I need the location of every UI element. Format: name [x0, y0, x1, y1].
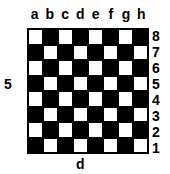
square-c5	[58, 76, 73, 92]
square-a2	[29, 123, 42, 137]
square-g4	[119, 92, 132, 106]
square-d4	[73, 91, 88, 107]
square-g6	[119, 61, 132, 75]
file-label-d: d	[73, 5, 88, 23]
rank-label-2: 2	[152, 124, 168, 140]
square-e6	[89, 61, 102, 75]
file-label-a: a	[27, 5, 42, 23]
bottom-file-label: d	[76, 156, 85, 172]
file-label-b: b	[42, 5, 57, 23]
square-g7	[118, 45, 133, 61]
square-f1	[104, 139, 117, 153]
square-h4	[133, 91, 148, 107]
rank-label-1: 1	[152, 140, 168, 156]
square-h3	[134, 108, 147, 122]
square-a7	[28, 45, 43, 61]
square-e4	[89, 92, 102, 106]
square-h5	[134, 77, 147, 91]
square-b8	[43, 29, 58, 45]
square-b7	[44, 46, 57, 60]
square-h2	[133, 122, 148, 138]
square-f3	[104, 108, 117, 122]
square-d8	[73, 29, 88, 45]
square-a6	[29, 61, 42, 75]
square-g8	[119, 30, 132, 44]
file-label-c: c	[58, 5, 73, 23]
square-g1	[118, 138, 133, 154]
rank-label-5: 5	[152, 76, 168, 92]
square-b6	[43, 60, 58, 76]
square-a5	[28, 76, 43, 92]
file-label-h: h	[134, 5, 149, 23]
square-d2	[73, 122, 88, 138]
square-b1	[44, 139, 57, 153]
square-g2	[119, 123, 132, 137]
square-f6	[103, 60, 118, 76]
rank-labels: 8 7 6 5 4 3 2 1	[152, 28, 168, 154]
square-c6	[59, 61, 72, 75]
square-a4	[29, 92, 42, 106]
square-c4	[59, 92, 72, 106]
square-e2	[89, 123, 102, 137]
square-e1	[88, 138, 103, 154]
square-h1	[134, 139, 147, 153]
file-label-e: e	[88, 5, 103, 23]
square-f7	[104, 46, 117, 60]
square-e7	[88, 45, 103, 61]
square-a8	[29, 30, 42, 44]
square-a1	[28, 138, 43, 154]
square-b4	[43, 91, 58, 107]
square-e5	[88, 76, 103, 92]
square-e3	[88, 107, 103, 123]
square-c3	[58, 107, 73, 123]
square-g5	[118, 76, 133, 92]
square-d7	[74, 46, 87, 60]
square-f4	[103, 91, 118, 107]
square-f2	[103, 122, 118, 138]
square-e8	[89, 30, 102, 44]
rank-label-7: 7	[152, 44, 168, 60]
square-d1	[74, 139, 87, 153]
square-g3	[118, 107, 133, 123]
square-d5	[74, 77, 87, 91]
square-c8	[59, 30, 72, 44]
square-a3	[28, 107, 43, 123]
square-h6	[133, 60, 148, 76]
rank-label-6: 6	[152, 60, 168, 76]
square-b2	[43, 122, 58, 138]
file-label-f: f	[103, 5, 118, 23]
rank-label-8: 8	[152, 28, 168, 44]
square-d6	[73, 60, 88, 76]
square-c1	[58, 138, 73, 154]
square-b5	[44, 77, 57, 91]
file-labels: a b c d e f g h	[27, 5, 149, 23]
square-b3	[44, 108, 57, 122]
chess-board	[27, 28, 149, 154]
rank-label-4: 4	[152, 92, 168, 108]
file-label-g: g	[119, 5, 134, 23]
square-f8	[103, 29, 118, 45]
square-c2	[59, 123, 72, 137]
square-h8	[133, 29, 148, 45]
square-d3	[74, 108, 87, 122]
left-rank-label: 5	[4, 76, 12, 92]
square-f5	[104, 77, 117, 91]
square-h7	[134, 46, 147, 60]
rank-label-3: 3	[152, 108, 168, 124]
square-c7	[58, 45, 73, 61]
